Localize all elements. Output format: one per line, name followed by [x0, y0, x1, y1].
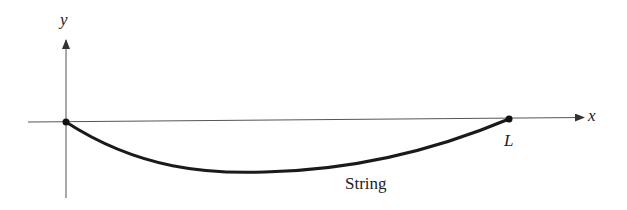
- x-axis-label: x: [588, 106, 596, 126]
- curve-label: String: [345, 174, 387, 194]
- end-point-L: [506, 116, 513, 123]
- y-axis-label: y: [60, 10, 68, 30]
- end-point-label: L: [504, 131, 513, 151]
- string-curve: [66, 119, 509, 172]
- origin-point: [63, 119, 70, 126]
- diagram-graphic: [0, 0, 627, 210]
- string-diagram: y x L String: [0, 0, 627, 210]
